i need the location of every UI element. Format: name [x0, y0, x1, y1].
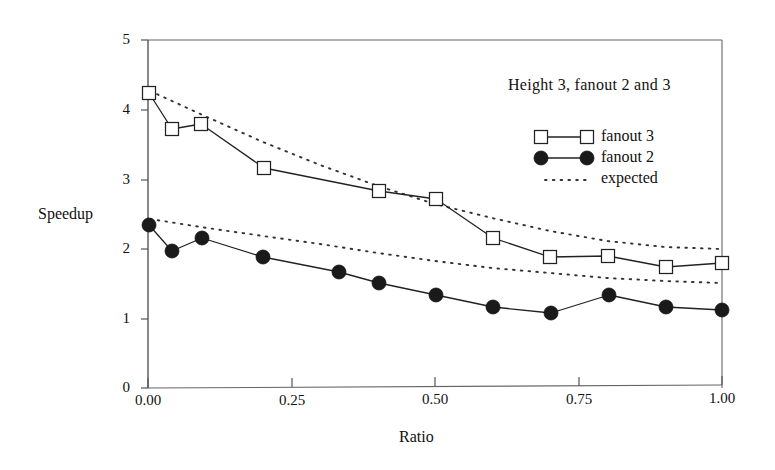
legend-label-fanout-3: fanout 3	[601, 126, 654, 146]
x-tick-label-4: 1.00	[687, 390, 757, 407]
legend-item-fanout-2: fanout 2	[533, 147, 733, 168]
y-tick-label-4: 4	[90, 101, 130, 118]
chart-annotation-title: Height 3, fanout 2 and 3	[508, 76, 671, 94]
legend-key-open-square	[533, 126, 595, 147]
legend-key-dotted-line	[533, 168, 595, 189]
chart-legend: fanout 3 fanout 2 expected	[533, 126, 733, 189]
x-tick-label-0: 0.00	[113, 392, 183, 409]
series-expected-fanout2-line	[150, 219, 721, 283]
y-axis-title: Speedup	[38, 205, 93, 223]
y-tick-label-3: 3	[90, 171, 130, 188]
x-tick-label-2: 0.50	[400, 391, 470, 408]
legend-label-fanout-2: fanout 2	[601, 147, 654, 167]
x-tick-label-1: 0.25	[257, 392, 327, 409]
series-fanout2-markers	[142, 218, 729, 320]
y-tick-label-1: 1	[90, 310, 130, 327]
y-tick-label-5: 5	[90, 31, 130, 48]
chart-figure: 5 4 3 2 1 0 0.00 0.25 0.50 0.75 1.00 Spe…	[0, 0, 775, 470]
y-tick-label-2: 2	[90, 240, 130, 257]
x-tick-label-3: 0.75	[544, 391, 614, 408]
legend-item-fanout-3: fanout 3	[533, 126, 733, 147]
legend-label-expected: expected	[601, 168, 658, 188]
legend-item-expected: expected	[533, 168, 733, 189]
legend-key-filled-circle	[533, 147, 595, 168]
x-axis-title: Ratio	[399, 428, 434, 446]
